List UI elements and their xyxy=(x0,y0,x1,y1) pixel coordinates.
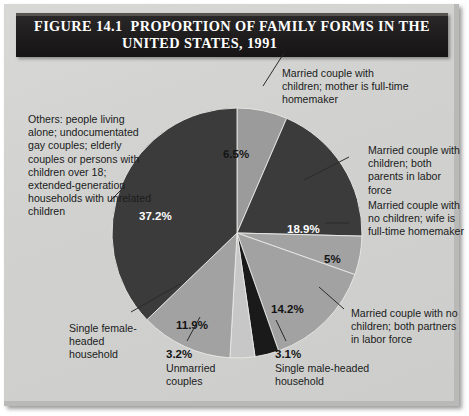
label-others: Others: people living alone; undocumenta… xyxy=(28,113,156,219)
label-unmarried-couples: Unmarried couples xyxy=(166,362,238,388)
label-single-male-household: Single male-headed household xyxy=(275,362,385,388)
label-married-children-homemaker: Married couple with children; mother is … xyxy=(282,67,410,107)
label-married-nochildren-wife-homemaker: Married couple with no children; wife is… xyxy=(368,199,468,239)
figure-card: FIGURE 14.1 PROPORTION OF FAMILY FORMS I… xyxy=(4,4,459,406)
leader-unmarried-couples xyxy=(187,317,200,341)
leader-married-children-homemaker xyxy=(263,53,284,86)
leader-married-nochildren-both-labor xyxy=(319,287,344,309)
leader-single-male-household xyxy=(276,320,286,341)
figure-root: FIGURE 14.1 PROPORTION OF FAMILY FORMS I… xyxy=(0,0,469,416)
label-married-nochildren-both-labor: Married couple with no children; both pa… xyxy=(351,307,461,347)
label-single-female-household: Single female-headed household xyxy=(69,322,149,362)
leader-married-children-both-labor xyxy=(304,157,349,180)
label-married-children-both-labor: Married couple with children; both paren… xyxy=(368,144,466,197)
leader-single-female-household xyxy=(131,284,180,312)
